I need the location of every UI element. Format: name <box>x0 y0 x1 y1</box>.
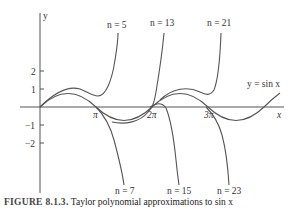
label-n15: n = 15 <box>167 186 192 196</box>
figure-caption: FIGURE 8.1.3. Taylor polynomial approxim… <box>4 197 294 208</box>
label-n7: n = 7 <box>115 186 135 196</box>
y-axis-label: y <box>43 11 48 21</box>
tick-pi: π <box>93 110 98 120</box>
label-sin: y = sin x <box>247 79 280 89</box>
caption-text: Taylor polynomial approximations to sin … <box>69 197 233 207</box>
x-axis-label: x <box>276 110 282 120</box>
tick-ym1: −1 <box>25 121 35 131</box>
label-n21: n = 21 <box>207 18 232 28</box>
label-n23: n = 23 <box>217 186 242 196</box>
tick-y2: 2 <box>31 67 36 77</box>
tick-y1: 1 <box>31 85 36 95</box>
curve-n7 <box>96 107 124 185</box>
curve-n21 <box>160 33 221 100</box>
label-n13: n = 13 <box>150 18 175 28</box>
taylor-plot: y x 2 1 −1 −2 π 2π 3π n = 5 n = 13 n = 2… <box>0 0 297 223</box>
tick-ym2: −2 <box>25 139 35 149</box>
figure-number: FIGURE 8.1.3. <box>4 197 69 207</box>
label-n5: n = 5 <box>107 20 127 30</box>
